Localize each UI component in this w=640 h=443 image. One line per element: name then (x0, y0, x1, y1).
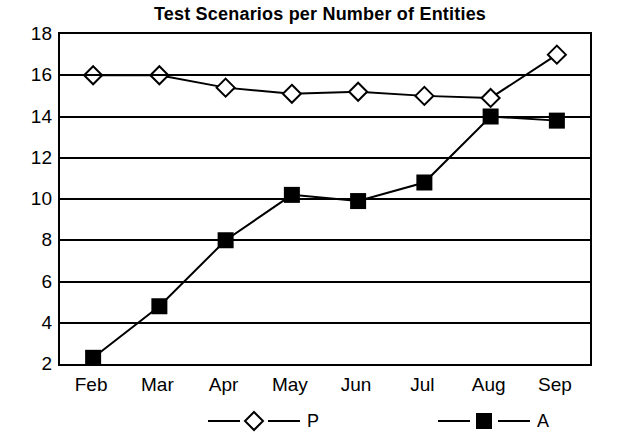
y-tick-label: 2 (4, 354, 52, 373)
legend-line (208, 420, 240, 422)
legend-entry-A[interactable]: A (438, 408, 549, 434)
gridline (60, 198, 590, 200)
plot-area (58, 32, 592, 366)
data-point-P (548, 46, 566, 64)
legend-entry-P[interactable]: P (208, 408, 319, 434)
gridline (60, 157, 590, 159)
legend-line (438, 420, 470, 422)
legend-marker-diamond-open-icon (243, 410, 265, 432)
chart-container: Test Scenarios per Number of Entities 24… (0, 0, 640, 443)
data-point-P (283, 85, 301, 103)
x-tick-label: Sep (515, 374, 595, 396)
chart-legend: PA (58, 408, 592, 438)
y-tick-label: 10 (4, 189, 52, 208)
data-point-A (86, 351, 100, 364)
gridline (60, 239, 590, 241)
legend-label: A (537, 412, 549, 430)
data-point-A (417, 176, 431, 190)
y-tick-label: 18 (4, 24, 52, 43)
data-point-P (415, 87, 433, 105)
gridline (60, 322, 590, 324)
x-axis-tick-labels: FebMarAprMayJunJulAugSep (58, 374, 592, 400)
legend-marker-square-filled-icon (473, 410, 495, 432)
gridline (60, 281, 590, 283)
y-tick-label: 6 (4, 272, 52, 291)
y-tick-label: 8 (4, 230, 52, 249)
gridline (60, 74, 590, 76)
y-tick-label: 16 (4, 65, 52, 84)
y-tick-label: 12 (4, 148, 52, 167)
legend-line (498, 420, 530, 422)
data-point-A (351, 194, 365, 208)
data-point-P (482, 89, 500, 107)
y-tick-label: 14 (4, 107, 52, 126)
y-tick-label: 4 (4, 313, 52, 332)
data-point-P (217, 79, 235, 97)
data-point-P (349, 83, 367, 101)
data-point-A (152, 299, 166, 313)
legend-line (268, 420, 300, 422)
chart-title: Test Scenarios per Number of Entities (0, 4, 640, 25)
legend-label: P (307, 412, 319, 430)
gridline (60, 116, 590, 118)
y-axis-tick-labels: 24681012141618 (0, 32, 52, 366)
